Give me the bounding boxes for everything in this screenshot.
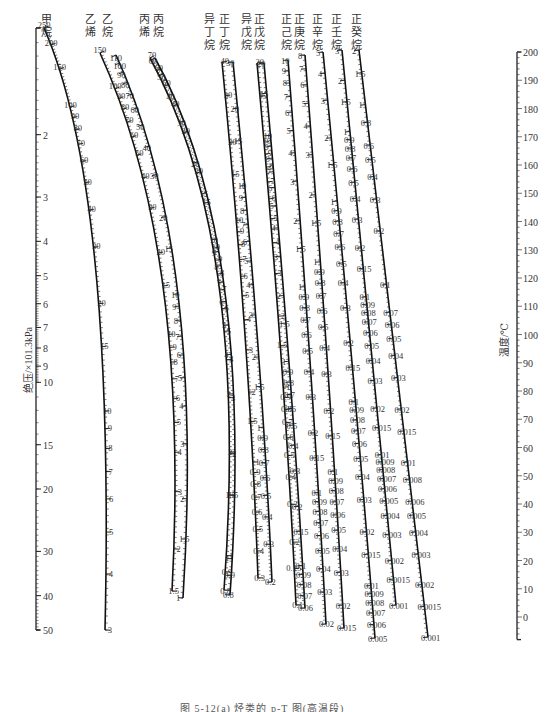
svg-text:0.06: 0.06: [385, 320, 400, 330]
svg-text:50: 50: [83, 177, 92, 187]
svg-text:200: 200: [45, 38, 58, 48]
svg-text:0.03: 0.03: [391, 373, 406, 383]
svg-text:0.07: 0.07: [313, 518, 328, 528]
svg-text:0.05: 0.05: [315, 546, 330, 556]
svg-text:0.5: 0.5: [287, 421, 298, 431]
series-header: 乙烯: [83, 13, 97, 39]
svg-text:0.2: 0.2: [265, 577, 276, 587]
svg-text:0.005: 0.005: [379, 496, 398, 506]
svg-text:0.04: 0.04: [366, 356, 382, 366]
svg-text:0.03: 0.03: [357, 495, 372, 505]
svg-text:80: 80: [121, 80, 129, 90]
svg-text:0.004: 0.004: [409, 528, 429, 538]
svg-text:0.07: 0.07: [362, 317, 377, 327]
svg-text:0.008: 0.008: [365, 598, 384, 608]
svg-text:0.6: 0.6: [252, 507, 263, 517]
svg-text:0.003: 0.003: [382, 530, 401, 540]
svg-text:0.02: 0.02: [336, 601, 351, 611]
svg-text:50: 50: [523, 471, 533, 482]
svg-text:0.8: 0.8: [315, 278, 326, 288]
svg-text:8: 8: [174, 316, 178, 326]
svg-text:0.9: 0.9: [283, 367, 294, 377]
svg-text:0.7: 0.7: [346, 153, 357, 163]
svg-text:20: 20: [523, 556, 533, 567]
svg-text:0.04: 0.04: [316, 564, 332, 574]
svg-text:0.03: 0.03: [368, 376, 383, 386]
svg-text:0.08: 0.08: [350, 415, 365, 425]
series-header: 正辛烷: [310, 13, 324, 52]
svg-text:1: 1: [359, 100, 363, 110]
svg-text:15: 15: [200, 189, 209, 199]
svg-text:0.5: 0.5: [252, 524, 263, 534]
svg-text:2: 2: [177, 544, 181, 554]
svg-text:1: 1: [257, 423, 261, 433]
svg-text:100: 100: [523, 330, 538, 341]
svg-text:0.7: 0.7: [284, 390, 295, 400]
svg-text:60: 60: [523, 443, 533, 454]
svg-text:0.8: 0.8: [223, 590, 234, 600]
svg-text:1.5: 1.5: [340, 97, 351, 107]
svg-text:30: 30: [224, 90, 233, 100]
svg-text:0.06: 0.06: [330, 510, 345, 520]
svg-text:0.4: 0.4: [262, 512, 273, 522]
svg-text:0.09: 0.09: [328, 476, 343, 486]
svg-text:8: 8: [43, 343, 48, 354]
series-header: 正庚烷: [292, 13, 306, 52]
svg-text:15: 15: [231, 169, 240, 179]
svg-text:0.07: 0.07: [297, 591, 312, 601]
svg-text:8: 8: [214, 262, 218, 272]
svg-text:0.005: 0.005: [368, 634, 387, 644]
svg-text:120: 120: [523, 273, 538, 284]
svg-text:7: 7: [109, 467, 113, 477]
svg-text:0.06: 0.06: [352, 439, 367, 449]
svg-text:9: 9: [239, 193, 243, 203]
svg-text:0.6: 0.6: [363, 141, 374, 151]
svg-text:0.2: 0.2: [289, 537, 300, 547]
svg-text:0.0015: 0.0015: [387, 575, 410, 585]
svg-text:140: 140: [523, 217, 538, 228]
svg-text:0.04: 0.04: [388, 351, 404, 361]
svg-text:150: 150: [53, 62, 66, 72]
svg-text:15: 15: [165, 244, 174, 254]
svg-text:3: 3: [321, 96, 325, 106]
svg-text:0.08: 0.08: [313, 507, 328, 517]
svg-text:3: 3: [306, 150, 310, 160]
svg-text:0.5: 0.5: [284, 450, 295, 460]
svg-text:0.4: 0.4: [338, 278, 349, 288]
svg-text:10: 10: [281, 56, 290, 66]
svg-text:0.1: 0.1: [380, 280, 391, 290]
svg-text:1.5: 1.5: [254, 382, 265, 392]
svg-text:4: 4: [271, 223, 276, 233]
svg-text:0.2: 0.2: [308, 428, 319, 438]
svg-text:60: 60: [80, 155, 89, 165]
svg-text:3: 3: [290, 177, 294, 187]
svg-text:2: 2: [338, 76, 342, 86]
svg-text:80: 80: [121, 102, 130, 112]
svg-text:190: 190: [523, 75, 538, 86]
svg-text:3: 3: [274, 252, 278, 262]
svg-text:4: 4: [224, 350, 229, 360]
svg-text:10: 10: [210, 235, 219, 245]
svg-text:0.015: 0.015: [337, 623, 356, 633]
svg-text:0.8: 0.8: [332, 217, 343, 227]
svg-text:10: 10: [238, 181, 247, 191]
svg-text:30: 30: [177, 118, 186, 128]
svg-text:0.006: 0.006: [367, 620, 386, 630]
svg-text:6: 6: [43, 299, 48, 310]
svg-text:8: 8: [265, 154, 269, 164]
svg-text:0.07: 0.07: [329, 497, 344, 507]
svg-text:0.2: 0.2: [355, 243, 366, 253]
svg-text:6: 6: [177, 350, 181, 360]
svg-text:0.8: 0.8: [258, 445, 269, 455]
svg-text:3: 3: [108, 625, 112, 635]
svg-text:0.002: 0.002: [385, 556, 404, 566]
svg-text:15: 15: [43, 440, 53, 451]
svg-text:5: 5: [270, 201, 274, 211]
svg-text:7: 7: [217, 278, 221, 288]
svg-text:40: 40: [43, 591, 53, 602]
svg-text:110: 110: [523, 301, 538, 312]
svg-text:0.2: 0.2: [324, 406, 335, 416]
svg-text:4: 4: [303, 121, 308, 131]
svg-text:2: 2: [180, 494, 184, 504]
svg-text:9: 9: [282, 66, 286, 76]
